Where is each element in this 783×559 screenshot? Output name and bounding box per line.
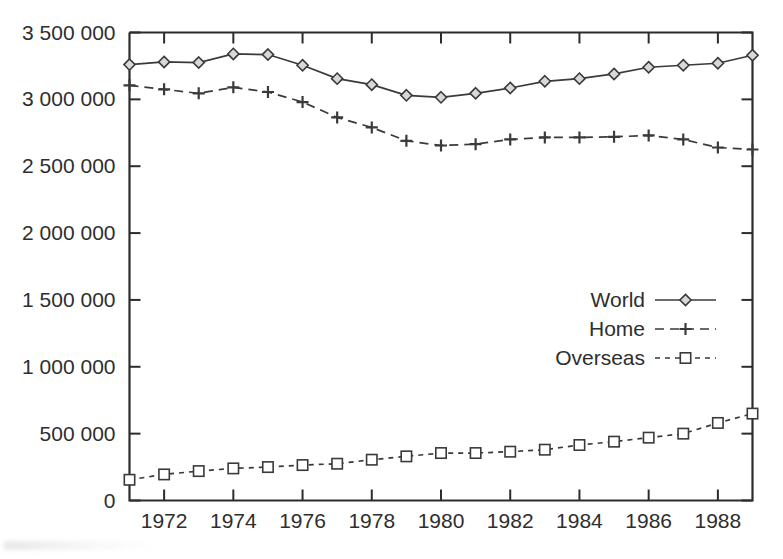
legend-world-diamond-marker	[680, 294, 691, 305]
series-overseas-square-marker	[713, 418, 723, 428]
series-world-diamond-marker	[228, 48, 239, 59]
series-home-plus-marker	[608, 131, 620, 143]
series-overseas-square-marker	[540, 444, 550, 454]
series-home-plus-marker	[331, 111, 343, 123]
series-overseas-square-marker	[643, 432, 653, 442]
series-world	[124, 48, 758, 103]
series-home-plus-marker	[712, 141, 724, 153]
series-overseas-square-marker	[194, 466, 204, 476]
series-world-diamond-marker	[332, 73, 343, 84]
series-overseas-square-marker	[678, 428, 688, 438]
series-world-diamond-marker	[678, 60, 689, 71]
series-home-plus-marker	[573, 131, 585, 143]
legend-home-plus-marker	[680, 323, 692, 335]
series-overseas-square-marker	[436, 448, 446, 458]
series-home-plus-marker	[643, 129, 655, 141]
series-overseas-square-marker	[401, 451, 411, 461]
y-tick-label: 1 000 000	[22, 355, 115, 378]
series-world-diamond-marker	[193, 57, 204, 68]
series-home-plus-marker	[158, 83, 170, 95]
series-world-diamond-marker	[470, 88, 481, 99]
series-world-diamond-marker	[574, 73, 585, 84]
x-tick-label: 1972	[141, 509, 188, 532]
line-chart: 0500 0001 000 0001 500 0002 000 0002 500…	[0, 0, 783, 559]
series-overseas-square-marker	[332, 459, 342, 469]
series-home-plus-marker	[504, 133, 516, 145]
series-world-diamond-marker	[366, 79, 377, 90]
series-world-diamond-marker	[124, 59, 135, 70]
y-tick-label: 3 000 000	[22, 87, 115, 110]
series-overseas-square-marker	[263, 462, 273, 472]
series-home-plus-marker	[435, 139, 447, 151]
series-group	[124, 48, 759, 485]
series-world-diamond-marker	[297, 60, 308, 71]
series-home-plus-marker	[124, 79, 136, 91]
y-tick-label: 3 500 000	[22, 21, 115, 44]
series-overseas-square-marker	[470, 448, 480, 458]
x-tick-label: 1986	[625, 509, 672, 532]
series-home-plus-marker	[297, 96, 309, 108]
series-world-diamond-marker	[401, 90, 412, 101]
series-world-diamond-marker	[643, 62, 654, 73]
series-world-diamond-marker	[262, 49, 273, 60]
y-tick-label: 2 000 000	[22, 221, 115, 244]
series-overseas-square-marker	[747, 408, 757, 418]
y-tick-label: 500 000	[40, 422, 116, 445]
series-world-diamond-marker	[712, 58, 723, 69]
series-overseas-square-marker	[609, 436, 619, 446]
scan-artifact	[4, 541, 154, 550]
legend-item-home[interactable]: Home	[589, 317, 716, 340]
series-overseas-square-marker	[159, 469, 169, 479]
chart-figure: 0500 0001 000 0001 500 0002 000 0002 500…	[0, 0, 783, 559]
series-world-diamond-marker	[435, 92, 446, 103]
series-home-plus-marker	[227, 81, 239, 93]
y-tick-label: 1 500 000	[22, 288, 115, 311]
y-axis-labels: 0500 0001 000 0001 500 0002 000 0002 500…	[22, 21, 115, 512]
series-overseas-square-marker	[297, 460, 307, 470]
series-home-plus-marker	[193, 87, 205, 99]
legend-item-world[interactable]: World	[591, 288, 716, 311]
series-overseas-square-marker	[574, 440, 584, 450]
y-tick-label: 0	[104, 489, 116, 512]
series-overseas	[124, 408, 757, 485]
series-world-diamond-marker	[747, 50, 758, 61]
series-home-plus-marker	[470, 138, 482, 150]
x-axis-labels: 197219741976197819801982198419861988	[141, 509, 741, 532]
series-home-plus-marker	[262, 86, 274, 98]
series-world-diamond-marker	[159, 56, 170, 67]
series-home-plus-marker	[747, 144, 759, 156]
legend-item-overseas[interactable]: Overseas	[555, 346, 716, 369]
series-home-plus-marker	[366, 121, 378, 133]
x-tick-label: 1988	[695, 509, 742, 532]
series-overseas-square-marker	[124, 475, 134, 485]
series-home-plus-marker	[677, 133, 689, 145]
series-overseas-square-marker	[367, 455, 377, 465]
legend-overseas-square-marker	[680, 353, 690, 363]
series-world-diamond-marker	[505, 82, 516, 93]
legend-label-home: Home	[589, 317, 645, 340]
x-tick-label: 1984	[556, 509, 603, 532]
y-tick-label: 2 500 000	[22, 154, 115, 177]
series-home-plus-marker	[400, 135, 412, 147]
x-tick-label: 1974	[210, 509, 257, 532]
x-tick-label: 1976	[279, 509, 326, 532]
legend-label-overseas: Overseas	[555, 346, 645, 369]
series-overseas-square-marker	[505, 446, 515, 456]
series-world-diamond-marker	[539, 76, 550, 87]
chart-legend: WorldHomeOverseas	[555, 288, 716, 369]
series-overseas-square-marker	[228, 463, 238, 473]
x-tick-label: 1980	[418, 509, 465, 532]
series-world-diamond-marker	[608, 68, 619, 79]
series-line-overseas	[130, 414, 753, 480]
series-home-plus-marker	[539, 131, 551, 143]
x-tick-label: 1982	[487, 509, 534, 532]
legend-label-world: World	[591, 288, 645, 311]
x-tick-label: 1978	[348, 509, 395, 532]
